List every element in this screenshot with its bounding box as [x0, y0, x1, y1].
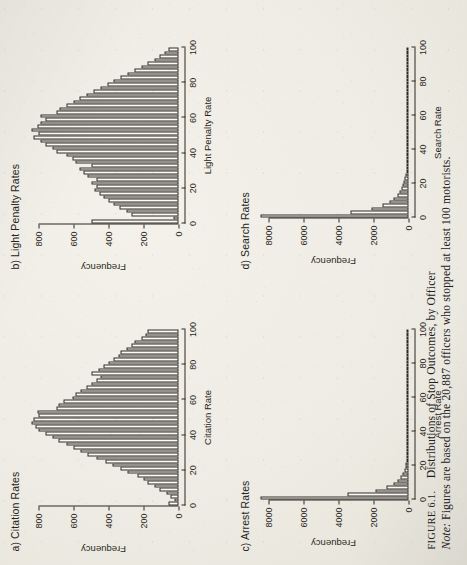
x-axis-tick-label: 20	[187, 183, 197, 193]
histogram-bar	[406, 417, 408, 420]
histogram-bar	[56, 149, 178, 153]
histogram-bar	[154, 484, 178, 488]
x-axis-title: Light Penalty Rate	[201, 96, 212, 174]
histogram-bar	[399, 190, 408, 193]
histogram-bar	[406, 88, 408, 91]
histogram-bar	[406, 353, 408, 356]
histogram-bar	[406, 64, 408, 67]
y-axis-tick-label: 6000	[298, 507, 308, 527]
panel-a-plot-area: 0204060801000200400600800Citation RateFr…	[28, 329, 178, 505]
y-axis-tick	[178, 506, 179, 510]
histogram-bar	[406, 377, 408, 380]
histogram-bar	[406, 159, 408, 162]
histogram-bar	[96, 378, 178, 382]
x-axis-tick	[411, 80, 415, 81]
y-axis-tick	[38, 224, 39, 228]
histogram-bar	[406, 142, 408, 145]
histogram-bar	[31, 421, 178, 425]
panel-c-plot-area: 02040608010002000400060008000Arrest Rate…	[258, 329, 408, 499]
y-axis-tick	[108, 506, 109, 510]
histogram-bar	[159, 487, 178, 491]
panel-d-plot-area: 02040608010002000400060008000Search Rate…	[258, 47, 408, 217]
figure-caption: FIGURE 6.1. Distributions of Stop Outcom…	[424, 9, 452, 549]
y-axis-tick	[38, 506, 39, 510]
x-axis-tick	[181, 187, 185, 188]
figure-number-label: FIGURE 6.1.	[425, 490, 436, 549]
histogram-bar	[406, 411, 408, 414]
histogram-bar	[66, 103, 178, 107]
x-axis-tick	[411, 498, 415, 499]
histogram-bar	[406, 54, 408, 57]
histogram-bar	[154, 58, 178, 62]
histogram-bar	[113, 79, 178, 83]
histogram-bar	[91, 219, 178, 223]
histogram-bar	[406, 397, 408, 400]
x-axis-line	[414, 329, 415, 499]
histogram-bar	[406, 404, 408, 407]
y-axis-tick	[178, 224, 179, 228]
histogram-bar	[406, 78, 408, 81]
histogram-bar	[91, 163, 178, 167]
histogram-bar	[100, 375, 178, 379]
histogram-bar	[38, 413, 178, 417]
histogram-bar	[406, 424, 408, 427]
histogram-bar	[141, 65, 178, 69]
histogram-bar	[406, 152, 408, 155]
histogram-bar	[147, 480, 178, 484]
histogram-bar	[406, 149, 408, 152]
x-axis-tick	[411, 396, 415, 397]
histogram-bar	[75, 392, 178, 396]
note-text: Figures are based on the 20,887 officers…	[439, 156, 452, 519]
histogram-bar	[45, 142, 178, 146]
histogram-bar	[96, 184, 178, 188]
histogram-bar	[80, 389, 178, 393]
x-axis-tick	[411, 182, 415, 183]
histogram-bar	[45, 431, 178, 435]
y-axis-tick-label: 600	[68, 231, 78, 246]
x-axis-tick	[411, 148, 415, 149]
histogram-bar	[40, 114, 178, 118]
histogram-bar	[79, 96, 178, 100]
x-axis-tick	[181, 434, 185, 435]
y-axis-tick	[373, 218, 374, 222]
histogram-bar	[173, 216, 178, 220]
histogram-bar	[38, 131, 178, 135]
histogram-bar	[406, 101, 408, 104]
panel-a-bars: 0204060801000200400600800Citation RateFr…	[28, 329, 178, 505]
y-axis-tick-label: 200	[138, 513, 148, 528]
histogram-bar	[33, 135, 178, 139]
histogram-bar	[100, 86, 178, 90]
histogram-bar	[45, 117, 178, 121]
histogram-bar	[406, 163, 408, 166]
y-axis-title: Frequency	[81, 543, 126, 554]
histogram-bar	[406, 445, 408, 448]
histogram-bar	[406, 132, 408, 135]
figure-container: a) Citation Rates 0204060801000200400600…	[0, 0, 467, 565]
y-axis-tick-label: 6000	[298, 225, 308, 245]
histogram-bar	[170, 494, 178, 498]
histogram-bar	[93, 89, 178, 93]
histogram-bar	[406, 339, 408, 342]
y-axis-tick-label: 400	[103, 231, 113, 246]
rotated-figure-canvas: a) Citation Rates 0204060801000200400600…	[0, 0, 467, 565]
histogram-bar	[406, 421, 408, 424]
histogram-bar	[80, 449, 178, 453]
histogram-bar	[118, 354, 178, 358]
panel-c-bars: 02040608010002000400060008000Arrest Rate…	[258, 329, 408, 499]
x-axis-line	[184, 329, 185, 505]
y-axis-tick-label: 800	[33, 513, 43, 528]
histogram-bar	[127, 470, 178, 474]
histogram-bar	[406, 115, 408, 118]
histogram-bar	[63, 399, 178, 403]
y-axis-tick	[268, 218, 269, 222]
x-axis-tick-label: 0	[187, 220, 197, 225]
histogram-bar	[406, 122, 408, 125]
histogram-bar	[406, 448, 408, 451]
y-axis-tick-label: 400	[103, 513, 113, 528]
histogram-bar	[86, 385, 178, 389]
caption-line-2: Note: Figures are based on the 20,887 of…	[439, 9, 452, 549]
x-axis-tick	[411, 46, 415, 47]
histogram-bar	[91, 371, 178, 375]
x-axis-tick	[411, 464, 415, 465]
y-axis-tick-label: 600	[68, 513, 78, 528]
